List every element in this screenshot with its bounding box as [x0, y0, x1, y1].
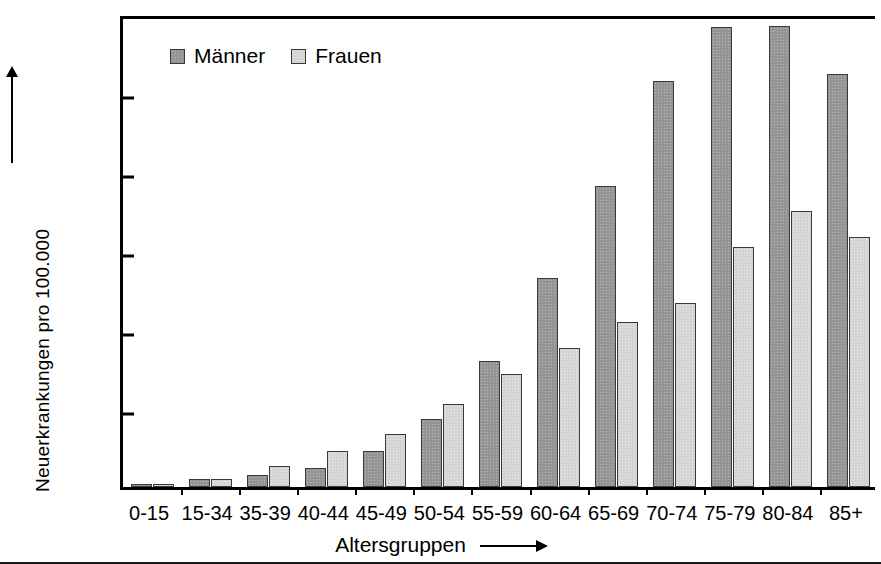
legend-item-frauen: Frauen — [291, 44, 382, 68]
bar-frauen — [675, 303, 696, 487]
bar-frauen — [211, 479, 232, 487]
bar-maenner — [247, 475, 268, 487]
bar-frauen — [443, 404, 464, 487]
bar-maenner — [653, 81, 674, 487]
x-category-label: 40-44 — [298, 502, 349, 525]
bar-frauen — [327, 451, 348, 487]
x-category-label: 60-64 — [530, 502, 581, 525]
bar-maenner — [189, 479, 210, 487]
bar-frauen — [791, 211, 812, 488]
y-tick-mark — [123, 255, 134, 258]
bar-frauen — [269, 466, 290, 487]
x-category-label: 85+ — [829, 502, 863, 525]
x-tick-mark — [704, 487, 706, 495]
x-axis-title: Altersgruppen — [335, 533, 466, 557]
bar-frauen — [849, 237, 870, 487]
bar-maenner — [711, 27, 732, 487]
legend-item-maenner: Männer — [170, 44, 265, 68]
x-tick-mark — [588, 487, 590, 495]
x-category-label: 0-15 — [129, 502, 169, 525]
y-tick-mark — [123, 97, 134, 100]
legend-label-frauen: Frauen — [315, 44, 382, 68]
x-category-label: 75-79 — [704, 502, 755, 525]
bar-frauen — [733, 247, 754, 487]
x-tick-mark — [646, 487, 648, 495]
x-category-label: 45-49 — [356, 502, 407, 525]
x-category-label: 50-54 — [414, 502, 465, 525]
x-tick-mark — [820, 487, 822, 495]
x-tick-mark — [530, 487, 532, 495]
x-category-label: 35-39 — [240, 502, 291, 525]
x-tick-mark — [413, 487, 415, 495]
bar-frauen — [617, 322, 638, 487]
x-tick-mark — [355, 487, 357, 495]
bar-maenner — [131, 484, 152, 487]
x-axis-arrow-icon — [480, 545, 546, 547]
bar-frauen — [153, 484, 174, 487]
x-category-label: 80-84 — [762, 502, 813, 525]
x-tick-mark — [471, 487, 473, 495]
plot-area — [120, 16, 875, 490]
x-axis-title-group: Altersgruppen — [0, 533, 881, 557]
bars-layer — [123, 19, 875, 487]
x-category-label: 15-34 — [182, 502, 233, 525]
legend-swatch-maenner-icon — [170, 49, 185, 64]
x-category-label: 55-59 — [472, 502, 523, 525]
bar-maenner — [769, 26, 790, 487]
x-tick-mark — [181, 487, 183, 495]
bar-frauen — [385, 434, 406, 487]
bar-maenner — [363, 451, 384, 487]
legend-swatch-frauen-icon — [291, 49, 306, 64]
y-tick-mark — [123, 176, 134, 179]
y-axis-label-group: Neuerkrankungen pro 100.000 — [2, 0, 42, 500]
bar-frauen — [559, 348, 580, 487]
y-tick-mark — [123, 334, 134, 337]
legend: Männer Frauen — [170, 44, 382, 68]
y-axis-arrow-icon — [11, 75, 13, 163]
legend-label-maenner: Männer — [194, 44, 265, 68]
y-axis-title: Neuerkrankungen pro 100.000 — [32, 229, 54, 492]
x-tick-mark — [297, 487, 299, 495]
x-category-label: 65-69 — [588, 502, 639, 525]
bar-maenner — [479, 361, 500, 487]
y-tick-mark — [123, 413, 134, 416]
bar-chart: Neuerkrankungen pro 100.000 050010001500… — [0, 0, 881, 564]
bar-frauen — [501, 374, 522, 487]
x-tick-mark — [762, 487, 764, 495]
bar-maenner — [305, 468, 326, 487]
bar-maenner — [537, 278, 558, 487]
bar-maenner — [421, 419, 442, 487]
x-tick-mark — [239, 487, 241, 495]
x-category-label: 70-74 — [646, 502, 697, 525]
bar-maenner — [595, 186, 616, 487]
bar-maenner — [827, 74, 848, 487]
